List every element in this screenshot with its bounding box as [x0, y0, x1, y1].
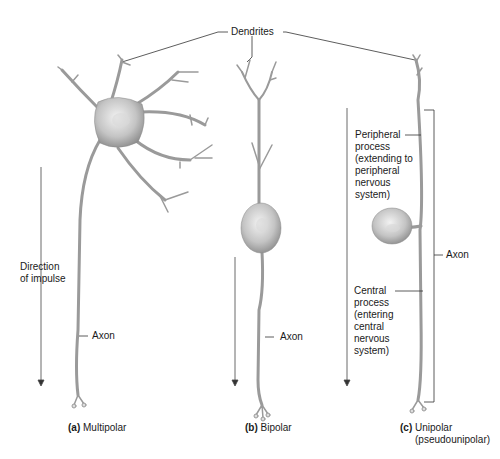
- central-process-label: Central process (entering central nervou…: [354, 285, 393, 357]
- axon-bracket: [424, 110, 434, 402]
- direction-of-impulse-label: Direction of impulse: [20, 261, 66, 285]
- dendrites-label: Dendrites: [231, 26, 274, 38]
- axon-label-a: Axon: [92, 330, 115, 342]
- caption-multipolar: (a) Multipolar: [68, 422, 126, 434]
- axon-label-c: Axon: [446, 249, 469, 261]
- peripheral-process-label: Peripheral process (extending to periphe…: [355, 129, 413, 201]
- direction-arrows: [38, 108, 350, 386]
- axon-label-b: Axon: [280, 331, 303, 343]
- caption-unipolar: (c) Unipolar (pseudounipolar): [400, 422, 490, 446]
- caption-bipolar: (b) Bipolar: [245, 422, 292, 434]
- neuron-diagram: [0, 0, 500, 459]
